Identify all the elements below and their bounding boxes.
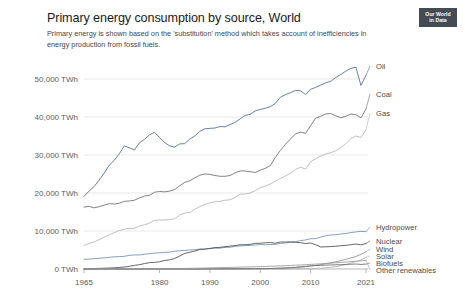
y-axis-tick-label: 20,000 TWh: [35, 189, 78, 198]
x-axis-tick-label: 1990: [201, 278, 219, 287]
x-axis-tick-label: 1980: [151, 278, 169, 287]
chart-subtitle: Primary energy is shown based on the 'su…: [47, 29, 367, 50]
legend-leader-line: [366, 94, 370, 109]
legend-leader-line: [366, 260, 370, 270]
legend-leader-line: [366, 256, 370, 257]
chart-container: Primary energy consumption by source, Wo…: [0, 0, 465, 302]
series-line-gas[interactable]: [84, 130, 366, 246]
x-axis-tick-label: 2010: [302, 278, 320, 287]
legend-label-gas[interactable]: Gas: [376, 109, 390, 118]
legend-leader-line: [366, 263, 370, 264]
legend-label-coal[interactable]: Coal: [376, 90, 392, 99]
x-axis-tick-label: 1965: [75, 278, 93, 287]
y-axis-tick-label: 40,000 TWh: [35, 113, 78, 122]
owid-logo[interactable]: Our World in Data: [419, 8, 457, 27]
y-axis-tick-label: 10,000 TWh: [35, 227, 78, 236]
legend-leader-line: [366, 241, 370, 244]
y-axis-tick-label: 0 TWh: [55, 265, 78, 274]
y-axis-tick-label: 30,000 TWh: [35, 151, 78, 160]
legend-label-oil[interactable]: Oil: [376, 62, 386, 71]
owid-logo-line2: in Data: [419, 17, 457, 23]
y-axis-tick-label: 50,000 TWh: [35, 75, 78, 84]
series-line-hydropower[interactable]: [84, 231, 366, 259]
series-line-oil[interactable]: [84, 67, 366, 196]
legend-leader-line: [366, 66, 370, 75]
page-title: Primary energy consumption by source, Wo…: [47, 11, 301, 25]
legend-label-other-renewables[interactable]: Other renewables: [376, 266, 436, 275]
series-line-nuclear[interactable]: [84, 242, 366, 269]
legend-label-hydropower[interactable]: Hydropower: [376, 223, 417, 232]
legend-leader-line: [366, 249, 370, 252]
legend-leader-line: [366, 113, 370, 130]
x-axis-tick-label: 2021: [357, 278, 375, 287]
x-axis-tick-label: 2000: [251, 278, 269, 287]
